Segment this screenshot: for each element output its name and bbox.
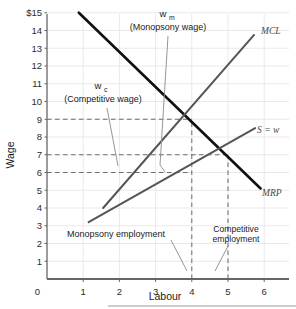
mcl-curve-label: MCL: [260, 26, 281, 36]
competitive-wage-variable: w: [94, 80, 102, 91]
monopsony-wage-subscript: m: [169, 14, 175, 21]
y-tick-label: $15: [26, 7, 42, 18]
y-tick-label: 11: [32, 78, 42, 89]
x-tick-label: 5: [225, 286, 230, 297]
competitive-employment-label-line1: Competitive: [213, 224, 259, 234]
y-tick-label: 2: [37, 238, 42, 249]
x-axis-title: Labour: [149, 290, 182, 302]
y-tick-label: 3: [37, 220, 42, 231]
x-tick-label: 4: [189, 286, 194, 297]
competitive-employment-label-line2: employment: [213, 234, 260, 244]
leader-competitive-employment: [215, 246, 228, 271]
y-tick-label: 12: [31, 60, 42, 71]
y-tick-label: 4: [37, 202, 42, 213]
mrp-curve-label: MRP: [261, 188, 282, 198]
monopsony-employment-label: Monopsony employment: [67, 229, 166, 239]
supply-curve-label: S = w: [257, 125, 280, 135]
leader-monopsony-employment: [171, 240, 187, 271]
guide-dashed-lines: [47, 119, 228, 279]
leader-monopsony-wage: [160, 36, 168, 172]
y-tick-label: 6: [37, 167, 42, 178]
chart-canvas: 1234567891011121314$150 123456 Wage Labo…: [0, 0, 296, 309]
monopsony-wage-caption: (Monopsony wage): [130, 22, 207, 32]
y-tick-label: 1: [37, 256, 42, 267]
y-tick-label: 13: [31, 43, 42, 54]
y-axis-tick-labels: 1234567891011121314$150: [26, 7, 42, 297]
x-tick-label: 6: [262, 286, 267, 297]
y-tick-label: 5: [37, 185, 42, 196]
y-axis-title: Wage: [4, 141, 16, 168]
x-tick-label: 1: [81, 286, 86, 297]
competitive-wage-caption: (Competitive wage): [64, 94, 142, 104]
monopsony-labour-market-chart: 1234567891011121314$150 123456 Wage Labo…: [0, 0, 296, 309]
y-tick-label-zero: 0: [35, 286, 40, 297]
y-tick-label: 7: [37, 149, 42, 160]
y-tick-label: 9: [37, 114, 42, 125]
y-tick-label: 8: [37, 131, 42, 142]
series-line-mcl: [103, 35, 254, 208]
y-tick-label: 14: [31, 25, 42, 36]
data-series-lines: [79, 13, 261, 222]
monopsony-wage-variable: w: [159, 8, 167, 19]
competitive-wage-subscript: c: [104, 86, 108, 93]
x-tick-label: 2: [117, 286, 122, 297]
y-tick-label: 10: [31, 96, 42, 107]
